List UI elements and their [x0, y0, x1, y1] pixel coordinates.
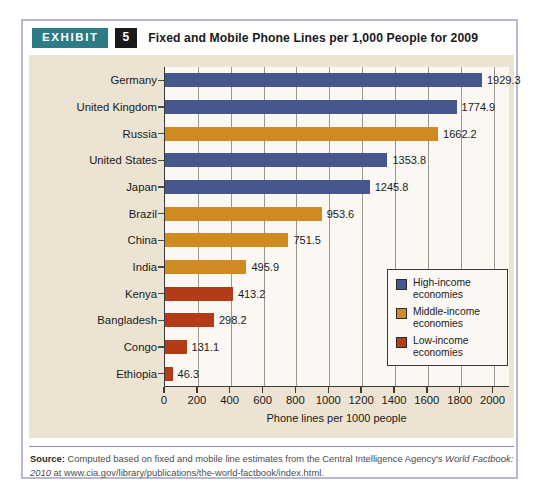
x-axis-tick-label: 1200	[349, 394, 374, 406]
legend-label-line2: economies	[413, 318, 480, 330]
x-axis-tick-label: 1000	[316, 394, 341, 406]
category-label: Congo	[124, 341, 157, 353]
x-axis-tick	[163, 387, 164, 393]
category-label: United Kingdom	[77, 101, 157, 113]
legend-swatch-icon	[396, 279, 407, 290]
x-axis-tick-label: 200	[187, 394, 206, 406]
bar-value-label: 1662.2	[438, 128, 477, 140]
chart-legend: High-incomeeconomiesMiddle-incomeeconomi…	[387, 269, 508, 366]
bar-row: 1662.2	[165, 127, 509, 141]
bar-value-label: 131.1	[187, 341, 220, 353]
gridline	[264, 67, 265, 386]
legend-label-line1: High-income	[413, 277, 471, 289]
category-label: Bangladesh	[97, 314, 157, 326]
x-axis-tick	[262, 387, 263, 393]
bar-united-kingdom	[165, 100, 457, 114]
bar-value-label: 46.3	[173, 368, 199, 380]
bar-russia	[165, 127, 438, 141]
x-axis-tick-label: 1400	[381, 394, 406, 406]
bar-row: 46.3	[165, 367, 509, 381]
y-axis-tick	[158, 240, 164, 241]
category-label: Kenya	[125, 288, 157, 300]
exhibit-number-badge: 5	[115, 28, 138, 48]
bar-bangladesh	[165, 313, 214, 327]
bar-kenya	[165, 287, 233, 301]
bar-china	[165, 233, 288, 247]
x-axis-tick-label: 0	[161, 394, 167, 406]
source-text-1: Computed based on fixed and mobile line …	[65, 453, 445, 464]
legend-label-line1: Low-income	[413, 335, 469, 347]
legend-swatch-icon	[396, 308, 407, 319]
legend-label: High-incomeeconomies	[413, 277, 471, 300]
exhibit-panel: EXHIBIT 5 Fixed and Mobile Phone Lines p…	[21, 19, 518, 479]
legend-label-line2: economies	[413, 289, 471, 301]
source-label: Source:	[30, 453, 65, 464]
bar-india	[165, 260, 246, 274]
bar-value-label: 1245.8	[370, 181, 409, 193]
bar-ethiopia	[165, 367, 173, 381]
category-label: China	[127, 234, 157, 246]
exhibit-badge: EXHIBIT	[32, 28, 108, 47]
bar-row: 953.6	[165, 207, 509, 221]
legend-item-middle-income: Middle-incomeeconomies	[396, 306, 501, 329]
chart-body: 1929.31774.91662.21353.81245.8953.6751.5…	[29, 55, 514, 438]
y-axis-tick	[158, 80, 164, 81]
bar-row: 1774.9	[165, 100, 509, 114]
bar-brazil	[165, 207, 322, 221]
bar-value-label: 1774.9	[457, 101, 496, 113]
x-axis-tick	[229, 387, 230, 393]
y-axis-tick	[158, 186, 164, 187]
x-axis-tick-label: 1800	[447, 394, 472, 406]
x-axis-tick-label: 400	[220, 394, 239, 406]
y-axis-tick	[158, 346, 164, 347]
source-divider	[29, 446, 514, 447]
y-axis-tick	[158, 293, 164, 294]
bar-value-label: 751.5	[288, 234, 321, 246]
legend-item-low-income: Low-incomeeconomies	[396, 335, 501, 358]
category-label: Brazil	[129, 208, 157, 220]
source-note: Source: Computed based on fixed and mobi…	[30, 452, 514, 480]
category-label: Russia	[122, 128, 157, 140]
bar-row: 751.5	[165, 233, 509, 247]
y-axis-tick	[158, 160, 164, 161]
y-axis-tick	[158, 213, 164, 214]
x-axis-tick	[360, 387, 361, 393]
x-axis-tick-label: 1600	[414, 394, 439, 406]
bar-value-label: 1353.8	[387, 154, 426, 166]
bar-row: 1353.8	[165, 153, 509, 167]
category-label: Ethiopia	[116, 368, 157, 380]
legend-label: Middle-incomeeconomies	[413, 306, 480, 329]
bar-value-label: 953.6	[322, 208, 355, 220]
x-axis-tick-label: 800	[286, 394, 305, 406]
exhibit-header: EXHIBIT 5 Fixed and Mobile Phone Lines p…	[23, 21, 516, 55]
x-axis-tick	[426, 387, 427, 393]
bar-congo	[165, 340, 187, 354]
legend-label-line1: Middle-income	[413, 306, 480, 318]
category-label: United States	[89, 154, 157, 166]
bar-germany	[165, 73, 482, 87]
legend-label-line2: economies	[413, 347, 469, 359]
x-axis-title: Phone lines per 1000 people	[164, 412, 509, 424]
bar-row: 1245.8	[165, 180, 509, 194]
x-axis-tick	[196, 387, 197, 393]
bar-value-label: 413.2	[233, 288, 266, 300]
x-axis-tick	[459, 387, 460, 393]
bar-value-label: 1929.3	[482, 74, 521, 86]
category-label: India	[133, 261, 158, 273]
category-label: Japan	[126, 181, 157, 193]
gridline	[198, 67, 199, 386]
bar-row: 1929.3	[165, 73, 509, 87]
x-axis-tick	[492, 387, 493, 393]
gridline	[362, 67, 363, 386]
category-label: Germany	[111, 74, 157, 86]
gridline	[329, 67, 330, 386]
legend-label: Low-incomeeconomies	[413, 335, 469, 358]
gridline	[296, 67, 297, 386]
x-axis-tick	[393, 387, 394, 393]
y-axis-tick	[158, 133, 164, 134]
x-axis-tick-label: 600	[253, 394, 272, 406]
y-axis-tick	[158, 373, 164, 374]
legend-swatch-icon	[396, 337, 407, 348]
gridline	[231, 67, 232, 386]
source-text-2: at www.cia.gov/library/publications/the-…	[51, 467, 324, 478]
